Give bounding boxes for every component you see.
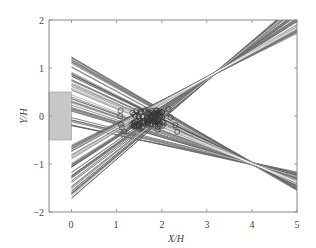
ray-bundles <box>72 2 297 198</box>
y-tick-0: 0 <box>39 111 44 122</box>
x-tick-4: 4 <box>250 219 255 230</box>
ray-intersection-chart: 0 1 2 3 4 5 2 1 0 −1 −2 X/H Y/H <box>0 0 316 248</box>
x-tick-5: 5 <box>295 219 300 230</box>
x-tick-0: 0 <box>69 219 74 230</box>
descending-ray-bundle <box>72 57 297 191</box>
source-slot-rectangle <box>49 92 72 140</box>
y-tick-1: 1 <box>39 63 44 74</box>
y-tick-neg1: −1 <box>33 159 44 170</box>
x-tick-1: 1 <box>114 219 119 230</box>
x-tick-3: 3 <box>205 219 210 230</box>
y-tick-2: 2 <box>39 15 44 26</box>
y-axis-label: Y/H <box>18 107 29 123</box>
y-tick-neg2: −2 <box>33 207 44 218</box>
x-tick-2: 2 <box>160 219 165 230</box>
x-axis-label: X/H <box>167 233 185 244</box>
